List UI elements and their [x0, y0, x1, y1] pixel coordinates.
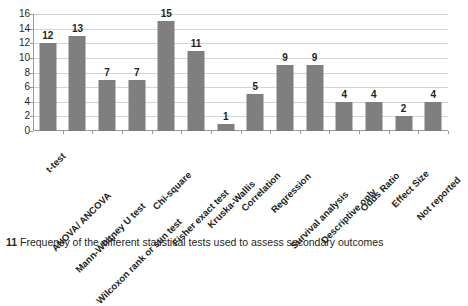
- bar: [336, 102, 353, 131]
- bar: [188, 51, 205, 131]
- bar: [158, 21, 175, 131]
- bar-group: 4: [418, 14, 448, 131]
- bar-group: 4: [329, 14, 359, 131]
- y-tick-label: 2: [24, 111, 30, 121]
- bar: [365, 102, 382, 131]
- figure-caption: 11 Frequency of the different statistica…: [6, 236, 466, 249]
- bar-group: 12: [33, 14, 63, 131]
- bar-value-label: 15: [161, 9, 172, 19]
- figure-number: 11: [6, 236, 17, 248]
- y-tick-label: 16: [19, 9, 30, 19]
- bar-value-label: 5: [253, 82, 259, 92]
- bar-value-label: 2: [401, 104, 407, 114]
- bar: [217, 124, 234, 131]
- y-tick-mark: [30, 131, 33, 132]
- bar-value-label: 7: [134, 68, 140, 78]
- bar: [395, 116, 412, 131]
- bars-layer: 121377151115994424: [33, 14, 448, 131]
- bar: [39, 43, 56, 131]
- bar-group: 9: [270, 14, 300, 131]
- y-tick-label: 4: [24, 97, 30, 107]
- bar: [276, 65, 293, 131]
- bar-group: 7: [122, 14, 152, 131]
- caption-body: Frequency of the different statistical t…: [20, 236, 383, 248]
- y-tick-label: 12: [19, 38, 30, 48]
- bar-group: 13: [63, 14, 93, 131]
- x-axis-tick-label: t-test: [60, 134, 84, 158]
- bar: [425, 102, 442, 131]
- y-tick-label: 8: [24, 68, 30, 78]
- x-axis-tick-label-text: t-test: [43, 150, 67, 174]
- bar-value-label: 13: [72, 24, 83, 34]
- bar-group: 11: [181, 14, 211, 131]
- bar: [99, 80, 116, 131]
- bar-group: 7: [92, 14, 122, 131]
- bar-value-label: 9: [282, 53, 288, 63]
- bar-value-label: 7: [104, 68, 110, 78]
- bar-group: 5: [241, 14, 271, 131]
- bar-chart: 16 14 12 10 8 6 4 2 0 121377151115994424: [0, 0, 468, 232]
- bar-group: 15: [152, 14, 182, 131]
- bar-value-label: 11: [191, 39, 202, 49]
- bar: [247, 94, 264, 131]
- bar-value-label: 4: [371, 90, 377, 100]
- bar-value-label: 4: [341, 90, 347, 100]
- bar: [69, 36, 86, 131]
- bar-group: 1: [211, 14, 241, 131]
- y-tick-label: 6: [24, 82, 30, 92]
- x-tick-mark: [448, 131, 449, 134]
- bar-value-label: 12: [42, 31, 53, 41]
- bar-value-label: 4: [430, 90, 436, 100]
- x-axis-tick-label-text: Wilcoxon rank or sun test: [94, 216, 184, 306]
- bar: [128, 80, 145, 131]
- y-tick-label: 0: [24, 126, 30, 136]
- bar-group: 2: [389, 14, 419, 131]
- bar-group: 9: [300, 14, 330, 131]
- bar-value-label: 9: [312, 53, 318, 63]
- bar: [306, 65, 323, 131]
- x-axis-labels: t-testANOVA/ ANCOVAMann-Whitney U testWi…: [33, 134, 448, 230]
- y-tick-label: 14: [19, 24, 30, 34]
- bar-group: 4: [359, 14, 389, 131]
- plot-area: 16 14 12 10 8 6 4 2 0 121377151115994424: [33, 14, 448, 131]
- y-tick-label: 10: [19, 53, 30, 63]
- bar-value-label: 1: [223, 112, 229, 122]
